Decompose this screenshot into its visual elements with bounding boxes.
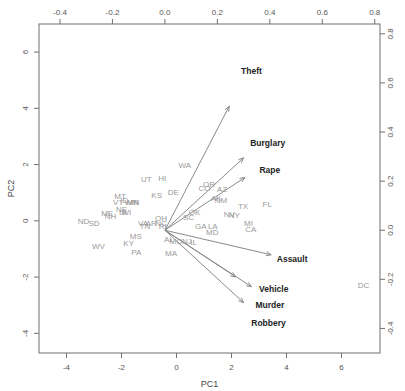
observation-label: MN: [127, 198, 140, 207]
tick-label-right: 0.6: [386, 77, 395, 89]
y-axis-title: PC2: [6, 180, 16, 198]
observation-label: UT: [141, 175, 152, 184]
observation-label: RI: [159, 222, 167, 231]
observation-labels: NDSDWVMENHVTMTIDNEIAWIWYINMNKYPAMSVATNAR…: [78, 161, 370, 290]
observation-label: HI: [158, 174, 166, 183]
tick-label-bottom: -4: [63, 363, 71, 372]
variable-label: Burglary: [250, 138, 285, 148]
biplot-canvas: -4-20246-0.4-0.20.00.20.40.60.86420-2-40…: [0, 0, 405, 391]
tick-label-right: 0.0: [386, 224, 395, 236]
observation-label: TX: [238, 202, 249, 211]
tick-label-right: -0.2: [386, 272, 395, 286]
observation-label: PA: [131, 248, 142, 257]
observation-label: OK: [189, 208, 201, 217]
tick-label-top: 0.6: [317, 8, 329, 17]
observation-label: DE: [168, 188, 179, 197]
tick-label-left: -4: [21, 329, 30, 337]
observation-label: MO: [170, 237, 183, 246]
observation-label: CA: [245, 225, 257, 234]
tick-label-left: 0: [21, 218, 30, 223]
observation-label: MD: [206, 228, 219, 237]
observation-label: WA: [178, 161, 191, 170]
tick-label-top: -0.2: [106, 8, 120, 17]
tick-label-left: 4: [21, 106, 30, 111]
tick-label-top: 0.8: [369, 8, 381, 17]
tick-label-right: 0.8: [386, 28, 395, 40]
observation-label: NY: [229, 211, 241, 220]
observation-label: DC: [358, 281, 370, 290]
observation-label: KS: [151, 191, 162, 200]
tick-label-left: 6: [21, 49, 30, 54]
variable-label: Vehicle: [259, 284, 289, 294]
tick-label-bottom: 6: [339, 363, 344, 372]
variable-label: Assault: [277, 254, 308, 264]
tick-label-right: 0.4: [386, 126, 395, 138]
tick-label-bottom: -2: [118, 363, 126, 372]
tick-label-bottom: 4: [284, 363, 289, 372]
observation-label: SD: [88, 219, 99, 228]
observation-label: IL: [190, 238, 197, 247]
x-axis-title: PC1: [201, 379, 219, 389]
variable-label: Rape: [259, 165, 280, 175]
tick-label-right: -0.4: [386, 321, 395, 335]
observation-label: OR: [203, 180, 215, 189]
tick-label-top: 0.2: [212, 8, 224, 17]
observation-label: WI: [122, 208, 132, 217]
tick-label-top: -0.4: [53, 8, 67, 17]
observation-label: MS: [130, 232, 142, 241]
tick-label-top: 0.4: [264, 8, 276, 17]
tick-label-bottom: 2: [229, 363, 234, 372]
tick-label-left: -2: [21, 273, 30, 281]
tick-label-bottom: 0: [174, 363, 179, 372]
biplot-figure: -4-20246-0.4-0.20.00.20.40.60.86420-2-40…: [0, 0, 405, 391]
tick-label-top: 0.0: [159, 8, 171, 17]
observation-label: AZ: [217, 185, 227, 194]
variable-label: Murder: [255, 300, 285, 310]
tick-label-left: 2: [21, 162, 30, 167]
variable-label: Theft: [241, 66, 262, 76]
variable-label: Robbery: [251, 318, 286, 328]
tick-label-right: 0.2: [386, 175, 395, 187]
variable-labels: TheftBurglaryRapeAssaultVehicleMurderRob…: [241, 66, 308, 328]
observation-label: WV: [92, 242, 106, 251]
observation-label: FL: [263, 200, 273, 209]
observation-label: MA: [165, 249, 178, 258]
observation-label: NH: [105, 212, 117, 221]
observation-label: NM: [215, 196, 228, 205]
